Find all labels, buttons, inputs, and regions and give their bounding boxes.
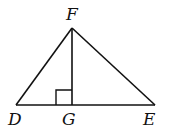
segment-fe [72, 28, 155, 105]
triangle-diagram: F D G E [0, 0, 189, 137]
label-f: F [65, 4, 79, 24]
right-angle-marker [56, 90, 72, 105]
label-g: G [62, 109, 76, 129]
segment-df [16, 28, 72, 105]
label-d: D [7, 109, 22, 129]
label-e: E [142, 109, 156, 129]
